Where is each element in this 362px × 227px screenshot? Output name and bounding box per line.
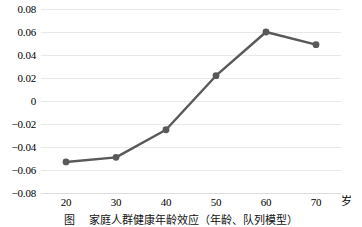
y-axis-tick-labels: 0.080.060.040.020−0.02−0.04−0.06−0.08 [0, 9, 36, 193]
y-axis-tick: −0.08 [0, 188, 36, 199]
x-axis-tick: 50 [196, 196, 236, 209]
data-point-marker [313, 41, 320, 48]
line-series [41, 9, 341, 193]
gridline [41, 193, 341, 194]
y-axis-tick: −0.02 [0, 119, 36, 130]
x-axis-tick: 20 [46, 196, 86, 209]
data-point-marker [263, 29, 270, 36]
y-axis-tick: −0.06 [0, 165, 36, 176]
data-point-marker [213, 72, 220, 79]
x-axis-tick: 40 [146, 196, 186, 209]
x-axis-tick: 70 [296, 196, 336, 209]
y-axis-tick: −0.04 [0, 142, 36, 153]
x-axis-tick-labels: 203040506070 [41, 196, 341, 212]
y-axis-tick: 0.06 [0, 27, 36, 38]
data-point-marker [63, 159, 70, 166]
figure-caption: 图 家庭人群健康年龄效应（年龄、队列模型） [0, 214, 362, 227]
series-line-path [66, 32, 316, 162]
figure-caption-text: 家庭人群健康年龄效应（年龄、队列模型） [89, 214, 298, 227]
x-axis-unit-label: 岁 [341, 195, 352, 209]
y-axis-tick: 0 [0, 96, 36, 107]
figure-caption-label: 图 [64, 214, 75, 227]
series-markers [63, 29, 320, 166]
data-point-marker [163, 126, 170, 133]
y-axis-tick: 0.04 [0, 50, 36, 61]
y-axis-tick: 0.02 [0, 73, 36, 84]
x-axis-tick: 60 [246, 196, 286, 209]
x-axis-tick: 30 [96, 196, 136, 209]
plot-area [41, 9, 341, 193]
figure-container: 0.080.060.040.020−0.02−0.04−0.06−0.08 20… [0, 0, 362, 227]
data-point-marker [113, 154, 120, 161]
y-axis-tick: 0.08 [0, 4, 36, 15]
